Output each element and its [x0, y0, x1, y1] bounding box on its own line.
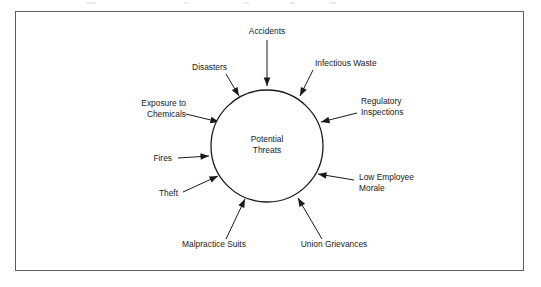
arrowhead-disasters [232, 87, 239, 96]
node-label-accidents: Accidents [249, 26, 285, 36]
arrowhead-regulatory-inspections [321, 117, 330, 123]
arrowhead-accidents [264, 78, 271, 87]
node-label-disasters-line-1: Disasters [192, 62, 227, 72]
spoke-infectious-waste [300, 70, 313, 96]
node-label-infectious-waste-line-1: Infectious Waste [315, 58, 377, 68]
spoke-low-employee-morale [318, 172, 354, 180]
spoke-fires [178, 153, 209, 160]
node-label-accidents-line-1: Accidents [249, 26, 285, 36]
hub-label-line-2: Threats [253, 145, 281, 155]
arrowhead-infectious-waste [300, 87, 307, 96]
node-label-theft-line-1: Theft [159, 188, 179, 198]
node-label-regulatory-inspections: RegulatoryInspections [361, 96, 403, 117]
spoke-accidents [264, 40, 271, 86]
node-label-disasters: Disasters [192, 62, 227, 72]
spoke-disasters [226, 74, 239, 96]
diagram-page: PotentialThreatsAccidentsInfectious Wast… [0, 0, 541, 287]
node-label-low-employee-morale-line-2: Morale [359, 183, 385, 193]
spoke-theft [183, 176, 218, 192]
spoke-exposure-to-chemicals [186, 114, 219, 123]
node-label-regulatory-inspections-line-1: Regulatory [361, 96, 402, 106]
spoke-union-grievances [298, 198, 322, 239]
node-label-exposure-to-chemicals: Exposure toChemicals [141, 98, 186, 119]
arrowhead-malpractice-suits [238, 199, 245, 208]
arrowhead-low-employee-morale [318, 172, 327, 179]
node-label-low-employee-morale: Low EmployeeMorale [359, 172, 414, 193]
node-label-regulatory-inspections-line-2: Inspections [361, 107, 403, 117]
node-label-exposure-to-chemicals-line-1: Exposure to [141, 98, 186, 108]
node-label-fires: Fires [153, 153, 172, 163]
hub-label-line-1: Potential [251, 134, 284, 144]
node-label-infectious-waste: Infectious Waste [315, 58, 377, 68]
node-label-exposure-to-chemicals-line-2: Chemicals [147, 109, 186, 119]
node-label-union-grievances: Union Grievances [301, 239, 368, 249]
node-label-theft: Theft [159, 188, 179, 198]
node-label-malpractice-suits-line-1: Malpractice Suits [182, 239, 246, 249]
arrowhead-theft [209, 176, 218, 183]
hub-label: PotentialThreats [251, 134, 284, 155]
spoke-malpractice-suits [226, 199, 245, 239]
node-label-fires-line-1: Fires [153, 153, 172, 163]
node-label-low-employee-morale-line-1: Low Employee [359, 172, 414, 182]
hub-and-spoke-diagram: PotentialThreatsAccidentsInfectious Wast… [0, 0, 541, 287]
node-label-malpractice-suits: Malpractice Suits [182, 239, 246, 249]
arrowhead-fires [200, 153, 209, 160]
arrowhead-union-grievances [298, 198, 305, 207]
spoke-regulatory-inspections [321, 113, 357, 123]
node-label-union-grievances-line-1: Union Grievances [301, 239, 368, 249]
